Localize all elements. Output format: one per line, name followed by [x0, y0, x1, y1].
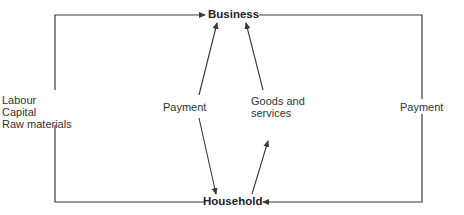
outer-payment-label: Payment	[400, 101, 443, 113]
factor-labour: Labour	[2, 94, 72, 106]
inner-payment-label: Payment	[163, 101, 206, 113]
goods-services-label: Goods and services	[251, 95, 305, 119]
household-node: Household	[203, 195, 262, 207]
factor-raw-materials: Raw materials	[2, 118, 72, 130]
business-node: Business	[208, 8, 259, 20]
factors-label: Labour Capital Raw materials	[2, 94, 72, 130]
factor-capital: Capital	[2, 106, 72, 118]
circular-flow-diagram: Business Household Labour Capital Raw ma…	[0, 0, 464, 215]
services-line: services	[251, 107, 305, 119]
goods-and-line: Goods and	[251, 95, 305, 107]
